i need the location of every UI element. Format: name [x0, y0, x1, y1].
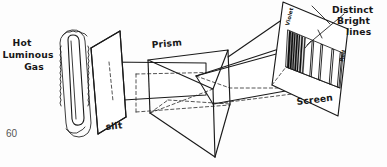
- emission-spectrum-figure: Hot Luminous Gas slit Prism Screen Viole…: [0, 0, 387, 167]
- callout-bright-lines-line1: Distinct: [332, 4, 374, 15]
- label-source-line3: Gas: [24, 61, 44, 72]
- figure-canvas: Hot Luminous Gas slit Prism Screen Viole…: [0, 0, 387, 167]
- label-source-line1: Hot: [13, 37, 32, 48]
- label-slit: slit: [105, 119, 123, 132]
- page-number: 60: [6, 128, 18, 139]
- callout-bright-lines-line3: lines: [346, 26, 372, 37]
- callout-bright-lines-line2: Bright: [337, 15, 371, 26]
- label-source-line2: Luminous: [2, 49, 54, 60]
- label-prism: Prism: [151, 36, 182, 50]
- hot-luminous-gas-tube: [60, 30, 91, 137]
